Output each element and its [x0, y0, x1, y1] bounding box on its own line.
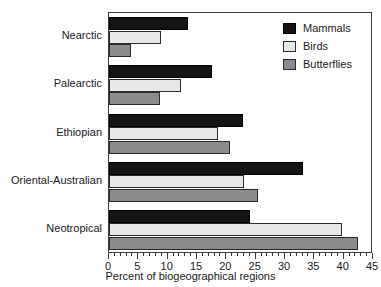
- x-tick-minor: [307, 253, 308, 256]
- x-tick-minor: [261, 253, 262, 256]
- y-axis-label-oriental-australian: Oriental-Australian: [11, 175, 102, 186]
- x-tick-minor: [126, 253, 127, 256]
- x-axis-title: Percent of biogeographical regions: [0, 270, 381, 282]
- legend-swatch-birds: [283, 41, 296, 52]
- bar-ethiopian-birds: [109, 127, 218, 140]
- bar-neotropical-butterflies: [109, 237, 358, 250]
- x-tick-minor: [302, 253, 303, 256]
- x-tick-minor: [131, 253, 132, 256]
- x-tick-minor: [184, 253, 185, 256]
- x-tick-minor: [278, 253, 279, 256]
- bar-chart: NearcticPalearcticEthiopianOriental-Aust…: [0, 0, 381, 287]
- y-axis-labels: NearcticPalearcticEthiopianOriental-Aust…: [0, 0, 104, 287]
- x-tick-minor: [337, 253, 338, 256]
- x-tick-minor: [360, 253, 361, 256]
- legend-item-birds: Birds: [283, 38, 352, 54]
- x-tick-minor: [208, 253, 209, 256]
- bar-oriental-australian-butterflies: [109, 189, 258, 202]
- x-tick-major: [255, 253, 256, 259]
- y-axis-label-palearctic: Palearctic: [54, 78, 102, 89]
- x-tick-minor: [266, 253, 267, 256]
- x-tick-major: [343, 253, 344, 259]
- legend-item-mammals: Mammals: [283, 20, 352, 36]
- x-tick-major: [372, 253, 373, 259]
- x-tick-major: [137, 253, 138, 259]
- bar-ethiopian-butterflies: [109, 141, 230, 154]
- x-tick-major: [196, 253, 197, 259]
- bar-nearctic-birds: [109, 31, 161, 44]
- x-tick-minor: [231, 253, 232, 256]
- legend-item-butterflies: Butterflies: [283, 56, 352, 72]
- legend-label-mammals: Mammals: [303, 23, 351, 34]
- x-tick-major: [284, 253, 285, 259]
- x-tick-minor: [202, 253, 203, 256]
- x-tick-minor: [290, 253, 291, 256]
- bar-palearctic-mammals: [109, 65, 212, 78]
- x-tick-minor: [349, 253, 350, 256]
- bar-nearctic-mammals: [109, 17, 188, 30]
- x-tick-minor: [143, 253, 144, 256]
- x-tick-minor: [114, 253, 115, 256]
- bar-neotropical-mammals: [109, 210, 250, 223]
- legend-label-birds: Birds: [303, 41, 328, 52]
- legend-label-butterflies: Butterflies: [303, 59, 352, 70]
- x-tick-minor: [331, 253, 332, 256]
- x-tick-major: [225, 253, 226, 259]
- bar-oriental-australian-mammals: [109, 162, 303, 175]
- x-tick-minor: [237, 253, 238, 256]
- x-tick-minor: [366, 253, 367, 256]
- bar-palearctic-birds: [109, 79, 181, 92]
- x-tick-minor: [325, 253, 326, 256]
- x-tick-major: [108, 253, 109, 259]
- x-tick-minor: [296, 253, 297, 256]
- x-tick-minor: [214, 253, 215, 256]
- bar-nearctic-butterflies: [109, 44, 131, 57]
- legend-swatch-mammals: [283, 23, 296, 34]
- legend-swatch-butterflies: [283, 59, 296, 70]
- x-tick-minor: [219, 253, 220, 256]
- x-tick-minor: [161, 253, 162, 256]
- x-tick-major: [313, 253, 314, 259]
- x-tick-minor: [120, 253, 121, 256]
- x-tick-minor: [155, 253, 156, 256]
- x-tick-minor: [243, 253, 244, 256]
- x-tick-minor: [190, 253, 191, 256]
- x-tick-minor: [178, 253, 179, 256]
- bar-palearctic-butterflies: [109, 92, 160, 105]
- x-tick-minor: [354, 253, 355, 256]
- y-axis-label-ethiopian: Ethiopian: [56, 127, 102, 138]
- y-axis-label-neotropical: Neotropical: [46, 223, 102, 234]
- x-tick-minor: [272, 253, 273, 256]
- x-tick-minor: [173, 253, 174, 256]
- legend: MammalsBirdsButterflies: [283, 20, 352, 74]
- x-tick-minor: [319, 253, 320, 256]
- bar-ethiopian-mammals: [109, 114, 243, 127]
- x-tick-minor: [149, 253, 150, 256]
- bar-oriental-australian-birds: [109, 175, 244, 188]
- y-axis-label-nearctic: Nearctic: [62, 30, 102, 41]
- bar-neotropical-birds: [109, 223, 342, 236]
- x-tick-major: [167, 253, 168, 259]
- x-tick-minor: [249, 253, 250, 256]
